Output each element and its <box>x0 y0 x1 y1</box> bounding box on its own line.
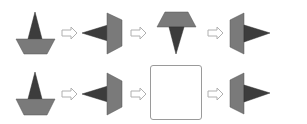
shape-triangle-left-with-vertical-trapezoid <box>82 73 122 115</box>
arrow-icon <box>62 27 77 39</box>
shape-triangle-up-on-trapezoid <box>16 12 55 54</box>
arrow-icon <box>131 27 146 39</box>
row-1 <box>16 12 270 54</box>
shape-trapezoid-top-with-triangle-down <box>157 12 196 54</box>
answer-box[interactable] <box>150 65 202 120</box>
arrow-icon <box>208 88 223 100</box>
arrow-icon <box>62 88 77 100</box>
shape-vertical-trapezoid-with-triangle-right <box>230 13 270 54</box>
arrow-icon <box>131 88 146 100</box>
row-2 <box>16 72 270 115</box>
shape-vertical-trapezoid-with-triangle-right <box>230 73 270 114</box>
shape-triangle-left-with-vertical-trapezoid <box>82 13 122 54</box>
arrow-icon <box>208 27 223 39</box>
shape-triangle-up-on-trapezoid <box>16 72 55 115</box>
